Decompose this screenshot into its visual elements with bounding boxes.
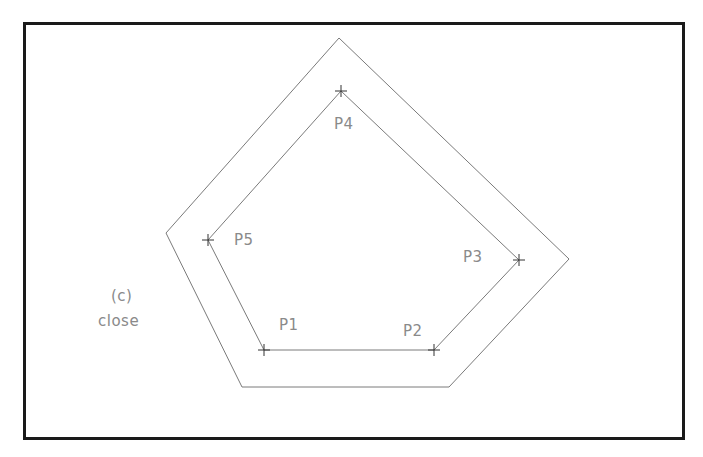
point-label-p1: P1 — [279, 318, 299, 333]
polyline-drawing — [0, 0, 703, 457]
point-label-p4: P4 — [334, 117, 354, 132]
closed-polyline — [208, 91, 519, 350]
point-label-p2: P2 — [403, 324, 423, 339]
command-label: close — [98, 314, 139, 329]
panel-label: (c) — [111, 289, 132, 304]
offset-outer-polygon — [166, 38, 569, 387]
point-label-p5: P5 — [234, 233, 254, 248]
cad-figure: P1 P2 P3 P4 P5 (c) close — [0, 0, 703, 457]
vertex-markers — [202, 85, 525, 356]
point-label-p3: P3 — [463, 250, 483, 265]
